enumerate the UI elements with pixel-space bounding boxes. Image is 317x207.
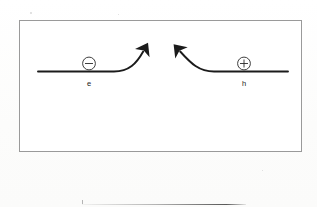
page-footer-rule [82,204,246,205]
electron-band-group [38,52,143,72]
electron-label: e [87,79,91,88]
hole-label: h [242,79,246,88]
electron-carrier-symbol [83,57,96,70]
figure-page: e h [0,0,317,207]
hole-band-curve [180,52,288,72]
electron-band-curve [38,52,143,72]
hole-carrier-symbol [238,57,251,70]
band-diagram-svg: e h [0,0,317,207]
hole-band-group [180,52,288,72]
